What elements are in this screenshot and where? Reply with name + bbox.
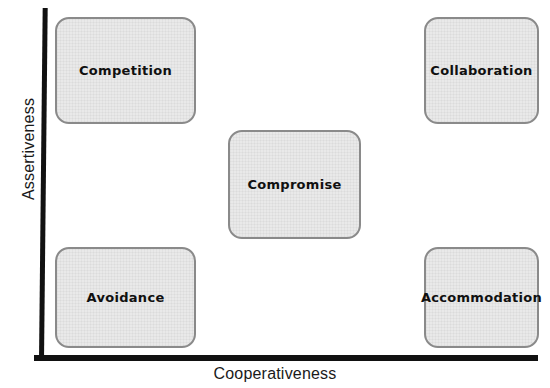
- diagram-canvas: Assertiveness Cooperativeness Competitio…: [0, 0, 550, 388]
- mode-box-compromise[interactable]: Compromise: [228, 130, 361, 239]
- mode-box-accommodation[interactable]: Accommodation: [424, 247, 539, 348]
- mode-box-label: Avoidance: [86, 290, 164, 305]
- mode-box-avoidance[interactable]: Avoidance: [55, 247, 196, 348]
- mode-box-label: Accommodation: [421, 290, 542, 305]
- mode-box-label: Compromise: [247, 177, 341, 192]
- y-axis-line: [39, 8, 48, 360]
- x-axis-line: [34, 355, 538, 361]
- mode-box-label: Competition: [79, 63, 172, 78]
- mode-box-competition[interactable]: Competition: [55, 17, 196, 124]
- mode-box-collaboration[interactable]: Collaboration: [424, 17, 539, 124]
- mode-box-label: Collaboration: [430, 63, 532, 78]
- y-axis-label: Assertiveness: [20, 69, 38, 229]
- x-axis-label: Cooperativeness: [0, 365, 550, 383]
